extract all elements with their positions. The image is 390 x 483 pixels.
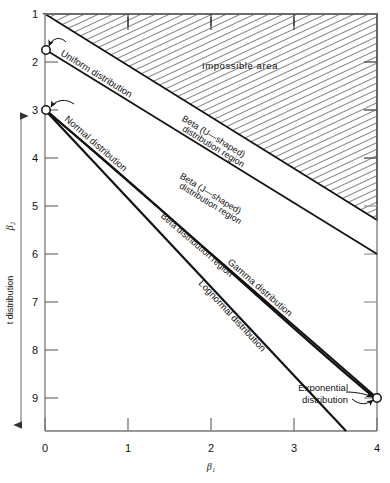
- normal-distribution-marker[interactable]: [42, 106, 50, 114]
- y-tick-6: 6: [32, 248, 38, 260]
- x-tick-1: 1: [125, 442, 131, 454]
- y-tick-9: 9: [32, 392, 38, 404]
- x-tick-3: 3: [291, 442, 297, 454]
- y-tick-8: 8: [32, 344, 38, 356]
- y-axis-tick-labels: 1 2 3 4 5 6 7 8 9: [32, 8, 38, 404]
- y-tick-5: 5: [32, 200, 38, 212]
- y-axis-title: β₂: [4, 221, 15, 231]
- exponential-label-line1: Exponential: [298, 382, 348, 393]
- x-tick-2: 2: [208, 442, 214, 454]
- exponential-distribution-marker[interactable]: [373, 394, 381, 402]
- y-tick-7: 7: [32, 296, 38, 308]
- beta1-beta2-moment-ratio-diagram: 1 2 3 4 5 6 7 8 9 0 1 2 3 4 β₁ β₂ t dist…: [0, 0, 390, 483]
- y-tick-4: 4: [32, 152, 38, 164]
- x-tick-0: 0: [42, 442, 48, 454]
- y-tick-3: 3: [32, 104, 38, 116]
- t-distribution-annotation: t distribution: [5, 276, 15, 325]
- x-tick-4: 4: [374, 442, 380, 454]
- uniform-distribution-marker[interactable]: [42, 46, 50, 54]
- x-axis-title: β₁: [206, 461, 215, 472]
- impossible-area-label: Impossible area: [202, 60, 278, 71]
- exponential-distribution-label: Exponential distribution: [298, 382, 348, 405]
- y-tick-1: 1: [32, 8, 38, 20]
- exponential-label-line2: distribution: [302, 394, 348, 405]
- y-tick-2: 2: [32, 56, 38, 68]
